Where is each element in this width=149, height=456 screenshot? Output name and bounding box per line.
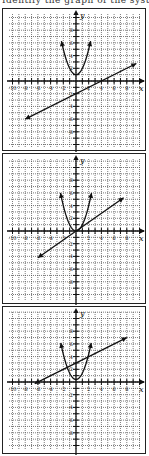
y-tick-label: 6 (70, 190, 73, 196)
y-tick-label: -8 (68, 430, 73, 436)
clipped-question-text: Identify the graph of the system... (2, 0, 149, 5)
x-tick-label: -8 (23, 386, 28, 392)
y-tick-label: 2 (70, 366, 73, 372)
graph-option-1[interactable]: -10-8-6-4-224688642-2-4-6-8xy (2, 8, 146, 151)
y-tick-label: 8 (70, 328, 73, 334)
graph-option-2[interactable]: -10-8-6-4-224688642-2-4-6-8xy (2, 153, 146, 304)
arrowhead-icon (87, 41, 92, 46)
x-tick-label: 8 (125, 386, 128, 392)
y-axis-label: y (79, 11, 85, 20)
y-tick-label: -6 (68, 116, 73, 122)
y-axis-label: y (79, 156, 85, 165)
graph-2-canvas: -10-8-6-4-224688642-2-4-6-8xy (3, 154, 147, 305)
y-tick-label: -4 (68, 404, 73, 410)
x-tick-label: 6 (113, 85, 116, 91)
y-tick-label: 2 (70, 215, 73, 221)
x-tick-label: -6 (35, 85, 40, 91)
y-tick-label: -8 (68, 129, 73, 135)
x-tick-label: -10 (8, 235, 16, 241)
x-tick-label: 8 (125, 235, 128, 241)
arrowhead-icon (60, 41, 65, 46)
x-tick-label: 2 (87, 235, 90, 241)
x-tick-label: -4 (48, 386, 53, 392)
x-tick-label: -4 (48, 85, 53, 91)
x-axis-label: x (139, 84, 144, 93)
arrowhead-icon (73, 155, 78, 160)
y-tick-label: 4 (70, 53, 73, 59)
x-axis-label: x (139, 234, 144, 243)
y-tick-label: 6 (70, 341, 73, 347)
arrowhead-icon (118, 198, 124, 203)
x-tick-label: -2 (61, 85, 66, 91)
arrowhead-icon (73, 308, 78, 313)
arrowhead-icon (73, 10, 78, 15)
graph-3-canvas: -10-8-6-4-224688642-2-4-6-8xy (3, 307, 147, 455)
y-tick-label: -4 (68, 103, 73, 109)
y-axis-label: y (79, 309, 85, 318)
y-tick-label: 6 (70, 40, 73, 46)
y-tick-label: -8 (68, 279, 73, 285)
x-tick-label: 2 (87, 386, 90, 392)
y-tick-label: 8 (70, 177, 73, 183)
y-tick-label: -4 (68, 253, 73, 259)
x-tick-label: 8 (125, 85, 128, 91)
graph-option-3[interactable]: -10-8-6-4-224688642-2-4-6-8xy (2, 306, 146, 454)
x-tick-label: -6 (35, 235, 40, 241)
y-tick-label: -6 (68, 417, 73, 423)
x-tick-label: 4 (100, 386, 103, 392)
arrowhead-icon (140, 379, 145, 384)
x-tick-label: 6 (113, 235, 116, 241)
x-tick-label: -4 (48, 235, 53, 241)
y-tick-label: 4 (70, 203, 73, 209)
arrowhead-icon (38, 253, 44, 258)
x-tick-label: -6 (35, 386, 40, 392)
x-tick-label: 4 (100, 235, 103, 241)
y-tick-label: 4 (70, 354, 73, 360)
arrowhead-icon (88, 343, 93, 348)
x-tick-label: 4 (100, 85, 103, 91)
graph-1-canvas: -10-8-6-4-224688642-2-4-6-8xy (3, 9, 147, 152)
x-tick-label: -8 (23, 85, 28, 91)
y-tick-label: -2 (68, 392, 73, 398)
x-axis-label: x (139, 385, 144, 394)
y-tick-label: -2 (68, 241, 73, 247)
y-tick-label: 8 (70, 27, 73, 33)
arrowhead-icon (140, 228, 145, 233)
x-tick-label: -10 (8, 386, 16, 392)
x-tick-label: -2 (61, 386, 66, 392)
x-tick-label: -8 (23, 235, 28, 241)
x-tick-label: 6 (113, 386, 116, 392)
x-tick-label: -10 (8, 85, 16, 91)
y-tick-label: -6 (68, 266, 73, 272)
arrowhead-icon (140, 78, 145, 83)
